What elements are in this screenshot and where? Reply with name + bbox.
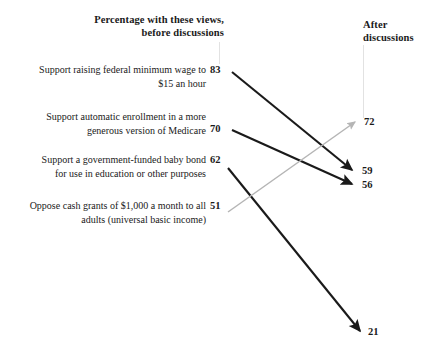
after-value-universal-basic-income: 72 <box>364 116 386 127</box>
row-label-line1: Support raising federal minimum wage to <box>0 63 206 77</box>
slope-arrow-medicare <box>232 130 352 184</box>
column-header-before-line1: Percentage with these views, <box>60 13 224 26</box>
row-label-line2: generous version of Medicare <box>0 124 206 138</box>
row-label-line1: Oppose cash grants of $1,000 a month to … <box>0 199 206 213</box>
guide-line-after <box>363 45 364 118</box>
row-label-minimum-wage: Support raising federal minimum wage to … <box>0 63 206 90</box>
row-label-line1: Support automatic enrollment in a more <box>0 110 206 124</box>
slope-arrow-minimum-wage <box>232 72 352 170</box>
column-header-after: After discussions <box>363 18 427 44</box>
row-label-line2: adults (universal basic income) <box>0 213 206 227</box>
column-header-before-line2: before discussions <box>60 26 224 39</box>
column-header-after-line1: After <box>363 18 427 31</box>
row-label-line1: Support a government-funded baby bond <box>0 153 206 167</box>
before-value-medicare: 70 <box>210 123 230 134</box>
row-label-baby-bond: Support a government-funded baby bond fo… <box>0 153 206 180</box>
before-value-baby-bond: 62 <box>210 154 230 165</box>
slope-arrow-baby-bond <box>228 168 360 331</box>
slope-arrow-universal-basic-income <box>228 122 355 212</box>
row-label-universal-basic-income: Oppose cash grants of $1,000 a month to … <box>0 199 206 226</box>
row-label-medicare: Support automatic enrollment in a more g… <box>0 110 206 137</box>
row-label-line2: for use in education or other purposes <box>0 167 206 181</box>
row-label-line2: $15 an hour <box>0 77 206 91</box>
after-value-minimum-wage: 59 <box>362 165 384 176</box>
guide-line-before <box>219 42 220 64</box>
before-value-minimum-wage: 83 <box>210 64 230 75</box>
column-header-before: Percentage with these views, before disc… <box>60 13 224 39</box>
after-value-baby-bond: 21 <box>368 326 390 337</box>
before-value-universal-basic-income: 51 <box>210 200 230 211</box>
after-value-medicare: 56 <box>362 179 384 190</box>
column-header-after-line2: discussions <box>363 31 427 44</box>
